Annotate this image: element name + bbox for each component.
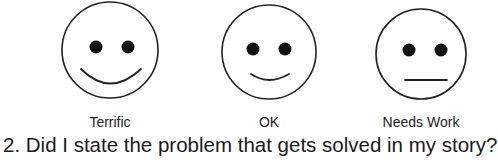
question-text: 2. Did I state the problem that gets sol… [3,133,498,157]
neutral-face-icon[interactable] [376,9,466,99]
faces-row [0,0,477,120]
option-label-ok: OK [259,114,279,130]
small-smile-face-icon[interactable] [222,5,316,99]
option-label-needs-work: Needs Work [383,114,460,130]
option-label-terrific: Terrific [89,114,130,130]
big-smile-face-icon[interactable] [62,2,158,98]
